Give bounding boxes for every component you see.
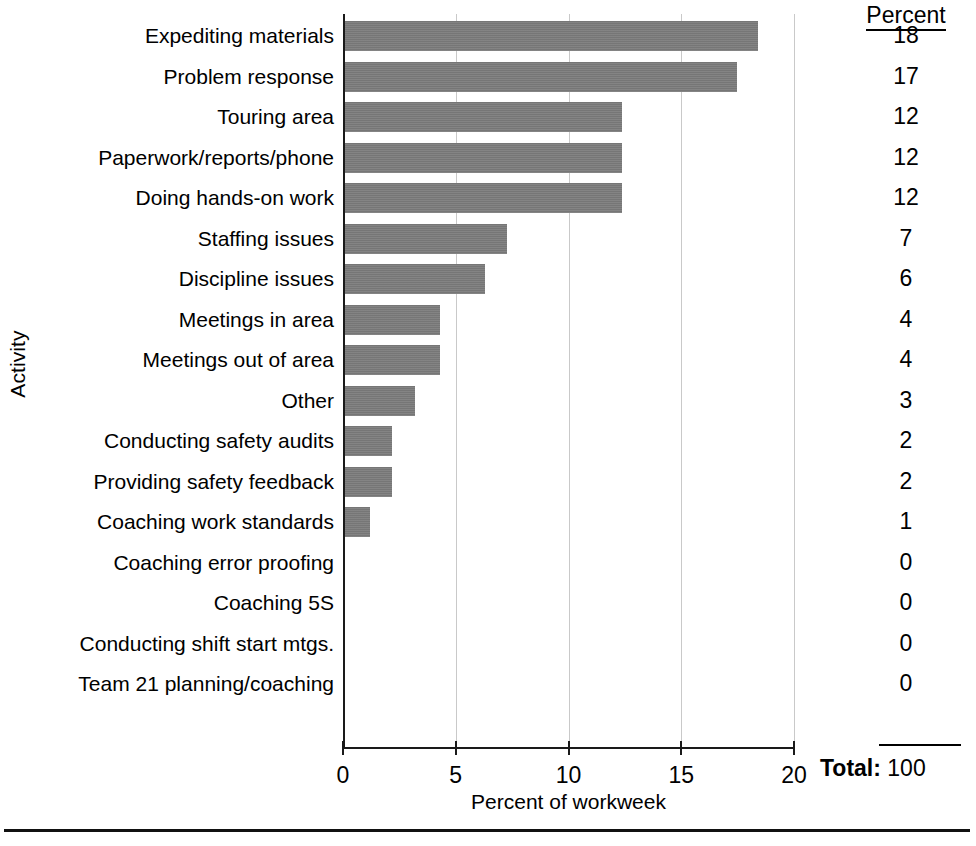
category-label: Paperwork/reports/phone — [0, 147, 334, 168]
gridline-15 — [681, 14, 682, 747]
category-label: Coaching work standards — [0, 511, 334, 532]
percent-value: 17 — [846, 65, 966, 88]
category-label: Conducting safety audits — [0, 430, 334, 451]
bar — [345, 62, 737, 92]
percent-value: 2 — [846, 429, 966, 452]
category-label: Providing safety feedback — [0, 471, 334, 492]
x-tick-label-5: 5 — [426, 762, 486, 789]
bar — [345, 183, 622, 213]
category-label: Touring area — [0, 106, 334, 127]
percent-value: 4 — [846, 348, 966, 371]
bar — [345, 102, 622, 132]
percent-value: 12 — [846, 146, 966, 169]
bar-chart-figure: Activity Percent 05101520 Total: 100 Per… — [0, 0, 976, 846]
total-row: Total: 100 — [820, 755, 970, 782]
category-label: Doing hands-on work — [0, 187, 334, 208]
bar — [345, 467, 392, 497]
percent-value: 1 — [846, 510, 966, 533]
bar — [345, 264, 485, 294]
percent-value: 0 — [846, 551, 966, 574]
total-label: Total: — [820, 755, 881, 781]
footer-rule — [4, 829, 970, 832]
bar — [345, 507, 370, 537]
percent-value: 2 — [846, 470, 966, 493]
category-label: Meetings out of area — [0, 349, 334, 370]
category-label: Coaching error proofing — [0, 552, 334, 573]
plot-area: 05101520 — [343, 14, 794, 747]
bar — [345, 224, 507, 254]
percent-value: 18 — [846, 24, 966, 47]
total-value: 100 — [887, 755, 925, 781]
x-tick-label-15: 15 — [651, 762, 711, 789]
bar — [345, 143, 622, 173]
percent-value: 0 — [846, 591, 966, 614]
category-label: Team 21 planning/coaching — [0, 673, 334, 694]
bar — [345, 386, 415, 416]
percent-value: 7 — [846, 227, 966, 250]
percent-value: 0 — [846, 632, 966, 655]
bar — [345, 345, 440, 375]
category-label: Problem response — [0, 66, 334, 87]
percent-value: 0 — [846, 672, 966, 695]
percent-value: 12 — [846, 186, 966, 209]
x-tick-label-0: 0 — [313, 762, 373, 789]
bar — [345, 305, 440, 335]
x-axis-title: Percent of workweek — [343, 790, 794, 814]
x-tick-0 — [342, 741, 344, 755]
x-tick-20 — [793, 741, 795, 755]
bar — [345, 21, 758, 51]
category-label: Meetings in area — [0, 309, 334, 330]
category-label: Staffing issues — [0, 228, 334, 249]
bar — [345, 426, 392, 456]
x-tick-15 — [680, 741, 682, 755]
gridline-20 — [794, 14, 795, 747]
percent-value: 6 — [846, 267, 966, 290]
category-label: Conducting shift start mtgs. — [0, 633, 334, 654]
x-tick-5 — [455, 741, 457, 755]
category-label: Coaching 5S — [0, 592, 334, 613]
total-separator-rule — [879, 744, 961, 746]
category-label: Discipline issues — [0, 268, 334, 289]
percent-value: 3 — [846, 389, 966, 412]
x-tick-10 — [568, 741, 570, 755]
category-label: Expediting materials — [0, 25, 334, 46]
percent-value: 12 — [846, 105, 966, 128]
x-tick-label-10: 10 — [539, 762, 599, 789]
category-label: Other — [0, 390, 334, 411]
x-tick-label-20: 20 — [764, 762, 824, 789]
percent-value: 4 — [846, 308, 966, 331]
